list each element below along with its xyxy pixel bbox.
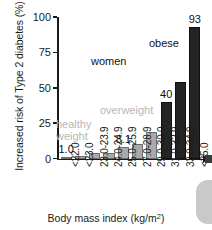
annotation-healthy-weight: healthy weight (56, 118, 91, 143)
x-axis-tick-label: 23.0-23.9 (99, 127, 110, 167)
x-axis-tick-label: 29.0-30.0 (156, 127, 167, 167)
x-axis-tick-label: 24.0-24.9 (113, 127, 124, 167)
bar-chart-figure: Increased risk of Type 2 diabetes (%) 02… (0, 0, 212, 230)
y-axis-tick-mark (53, 52, 57, 54)
y-axis-tick-mark (53, 16, 57, 18)
x-axis-title: Body mass index (kg/m2) (0, 212, 212, 224)
x-axis-tick-label: 27.0-28.9 (142, 127, 153, 167)
x-axis-tick-label: <22.0 (70, 143, 81, 167)
x-axis-tick-label: 31.0-32.9 (170, 127, 181, 167)
x-axis-title-tail: ) (161, 212, 165, 224)
annotation-women: women (91, 55, 126, 67)
bar-value-label: 93 (180, 13, 210, 25)
y-axis-tick-mark (53, 158, 57, 160)
x-axis-tick-label: 33.0-34.9 (185, 127, 196, 167)
annotation-obese-line1: obese (149, 37, 179, 49)
annotation-healthy-weight-line2: weight (56, 130, 91, 142)
page-edge-artifact (196, 180, 212, 224)
y-axis-tick-label: 100 (33, 11, 51, 23)
y-axis-tick-label: 50 (39, 82, 51, 94)
x-axis-title-base: Body mass index (kg/m (48, 212, 157, 224)
y-axis-tick-label: 75 (39, 46, 51, 58)
annotation-healthy-weight-line1: healthy (56, 118, 91, 130)
y-axis-tick-mark (53, 87, 57, 89)
annotation-overweight-line1: overweight (100, 104, 153, 116)
y-axis-tick-label: 0 (45, 153, 51, 165)
x-axis-tick-label: 25.0-25.9 (127, 127, 138, 167)
annotation-women-line1: women (91, 55, 126, 67)
page-edge-mark (205, 155, 212, 163)
annotation-overweight: overweight (100, 104, 153, 116)
y-axis-title: Increased risk of Type 2 diabetes (%) (13, 1, 25, 171)
x-axis-tick-label: <23.0 (84, 143, 95, 167)
y-axis-tick-label: 25 (39, 117, 51, 129)
bar-value-label: 40 (151, 88, 181, 100)
annotation-obese: obese (149, 37, 179, 49)
